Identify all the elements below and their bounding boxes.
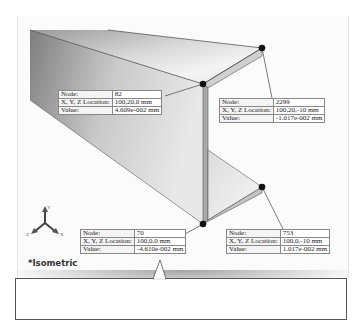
callout-pointer	[0, 0, 363, 314]
